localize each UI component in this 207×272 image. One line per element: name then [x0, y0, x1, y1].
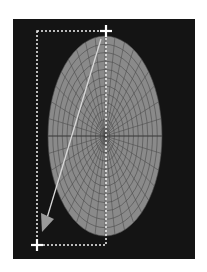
- ellipse-mesh[interactable]: [48, 36, 162, 236]
- canvas-area[interactable]: [0, 0, 207, 272]
- viewport-canvas[interactable]: [0, 0, 207, 272]
